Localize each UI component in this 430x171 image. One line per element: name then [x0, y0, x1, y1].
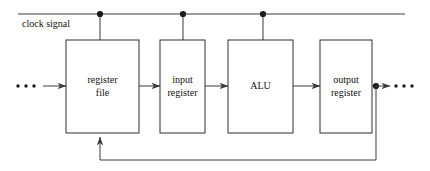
output-ellipsis-dot-2 [402, 84, 405, 87]
block-output-register: output register [320, 40, 372, 133]
register-file-label-line1: register [88, 74, 119, 85]
alu-label-line1: ALU [250, 80, 271, 91]
output-ellipsis-dot-3 [410, 84, 413, 87]
clock-junction-dot-1 [97, 11, 103, 17]
input-register-label-line2: register [168, 87, 199, 98]
output-bus-group [372, 83, 414, 89]
diagram-canvas: clock signal register file input registe… [0, 0, 430, 171]
clock-bus-group: clock signal [18, 11, 405, 40]
register-file-label-line2: file [96, 87, 110, 98]
output-register-label-line1: output [333, 74, 359, 85]
clock-junction-dot-3 [260, 11, 266, 17]
input-ellipsis-dot-2 [24, 84, 27, 87]
input-ellipsis-dot-1 [16, 84, 19, 87]
clock-junction-dot-2 [180, 11, 186, 17]
output-ellipsis-dot-1 [394, 84, 397, 87]
input-bus-group [16, 84, 66, 87]
block-register-file: register file [66, 40, 139, 133]
output-register-label-line2: register [331, 87, 362, 98]
block-input-register: input register [160, 40, 205, 133]
block-alu: ALU [228, 40, 293, 133]
input-ellipsis-dot-3 [32, 84, 35, 87]
input-register-label-line1: input [172, 74, 193, 85]
clock-signal-label: clock signal [22, 18, 70, 29]
datapath-diagram: clock signal register file input registe… [0, 0, 430, 171]
